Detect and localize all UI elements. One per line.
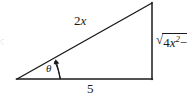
- math-figure-right-triangle: 2x 5 θ √4x2− ः: [0, 0, 189, 100]
- label-hypotenuse: 2x: [74, 14, 86, 27]
- triangle-svg-canvas: [0, 0, 189, 100]
- label-base-length: 5: [87, 82, 94, 95]
- radicand-truncated-operator: −: [180, 35, 187, 50]
- hypotenuse-variable: x: [81, 13, 87, 28]
- radicand-group: 4x2−: [162, 33, 187, 49]
- theta-pointer-line: [57, 63, 61, 80]
- label-vertical-expression: √4x2−: [156, 33, 187, 49]
- clipped-edge-text-fragment: ः: [0, 36, 4, 50]
- label-angle-theta: θ: [46, 63, 51, 74]
- radical-expression: √4x2−: [156, 33, 187, 49]
